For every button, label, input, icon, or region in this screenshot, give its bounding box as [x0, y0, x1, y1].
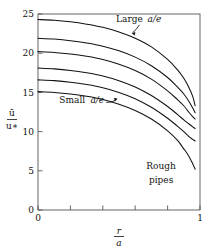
- y-tick-label-20: 20: [23, 48, 35, 58]
- annotation-large-ae-text: Large: [116, 14, 143, 24]
- y-tick-label-25: 25: [23, 9, 35, 19]
- y-axis-label-denominator: u∗: [6, 121, 18, 131]
- y-tick-label-10: 10: [23, 127, 35, 137]
- curve-curve-5: [38, 80, 195, 141]
- annotation-small-ae-text: Small: [59, 95, 85, 105]
- x-axis-label-denominator: a: [116, 238, 121, 248]
- y-axis-label-numerator: ū: [9, 108, 15, 118]
- x-axis-label-numerator: r: [117, 226, 122, 236]
- annotation-rough-pipes-line2: pipes: [149, 175, 174, 185]
- y-tick-label-0: 0: [28, 205, 34, 215]
- y-tick-label-15: 15: [23, 88, 35, 98]
- annotation-large-ae-leader: [132, 25, 139, 33]
- plot-frame: [38, 14, 200, 210]
- chart-svg: 051015202501ūu∗raLargea/eSmalla/eRoughp…: [0, 0, 215, 249]
- annotation-rough-pipes-line1: Rough: [146, 161, 176, 171]
- annotation-small-ae-math: a/e: [90, 95, 104, 105]
- y-tick-label-5: 5: [28, 166, 34, 176]
- x-tick-label-1: 1: [197, 213, 203, 223]
- x-tick-label-0: 0: [35, 213, 41, 223]
- figure-container: 051015202501ūu∗raLargea/eSmalla/eRoughp…: [0, 0, 215, 249]
- annotation-large-ae-math: a/e: [148, 14, 162, 24]
